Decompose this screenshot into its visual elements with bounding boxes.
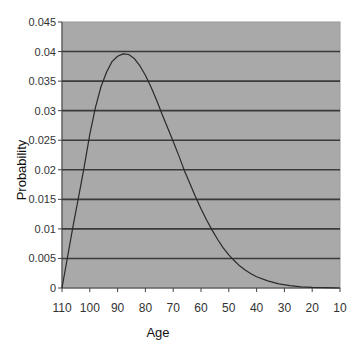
y-tick-label: 0.03 xyxy=(35,105,56,117)
x-tick-label: 80 xyxy=(139,301,153,315)
y-tick-label: 0.015 xyxy=(28,193,56,205)
x-tick-label: 40 xyxy=(250,301,264,315)
y-tick-label: 0.02 xyxy=(35,164,56,176)
y-tick-label: 0.01 xyxy=(35,223,56,235)
y-tick-label: 0 xyxy=(50,282,56,294)
x-tick-label: 100 xyxy=(80,301,100,315)
x-axis-title: Age xyxy=(146,325,169,340)
y-tick-label: 0.005 xyxy=(28,252,56,264)
x-tick-label: 50 xyxy=(222,301,236,315)
y-axis-title: Probability xyxy=(14,139,29,200)
x-tick-label: 90 xyxy=(111,301,125,315)
y-tick-label: 0.025 xyxy=(28,134,56,146)
y-tick-label: 0.04 xyxy=(35,46,56,58)
y-axis: 00.0050.010.0150.020.0250.030.0350.040.0… xyxy=(28,16,62,294)
x-tick-label: 60 xyxy=(194,301,208,315)
x-tick-label: 20 xyxy=(306,301,320,315)
x-tick-label: 70 xyxy=(167,301,181,315)
probability-by-age-chart: 00.0050.010.0150.020.0250.030.0350.040.0… xyxy=(0,0,363,357)
x-tick-label: 10 xyxy=(333,301,347,315)
y-tick-label: 0.045 xyxy=(28,16,56,28)
x-tick-label: 30 xyxy=(278,301,292,315)
x-tick-label: 110 xyxy=(52,301,71,315)
x-axis: 110100908070605040302010 xyxy=(52,288,347,315)
y-tick-label: 0.035 xyxy=(28,75,56,87)
plot-area xyxy=(62,22,340,288)
